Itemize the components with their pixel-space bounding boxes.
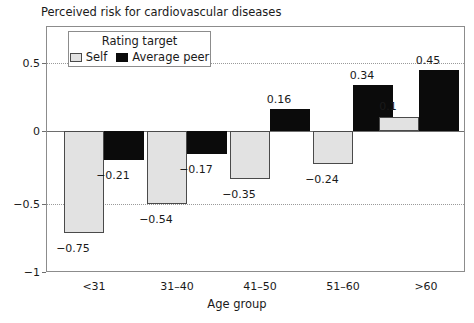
x-tick-label-1: 31–40 xyxy=(137,281,217,293)
legend-entries: Self Average peer xyxy=(69,51,210,63)
y-tick-mark-3 xyxy=(42,272,46,273)
y-axis: 0.5 0 −0.5 −1 xyxy=(0,0,46,323)
legend: Rating target Self Average peer xyxy=(68,31,211,67)
x-tick-label-0: <31 xyxy=(54,281,134,293)
y-tick-label-0: 0.5 xyxy=(0,58,40,69)
data-label-self-3: −0.24 xyxy=(292,174,352,186)
legend-label-peer: Average peer xyxy=(132,51,209,63)
y-tick-label-1: 0 xyxy=(0,126,40,137)
data-label-self-2: −0.35 xyxy=(209,189,269,201)
data-label-peer-0: −0.21 xyxy=(83,170,143,182)
legend-swatch-peer-icon xyxy=(116,53,128,62)
bar-self-4 xyxy=(379,117,419,131)
bar-self-0 xyxy=(64,131,104,233)
legend-title: Rating target xyxy=(69,35,210,48)
data-label-self-0: −0.75 xyxy=(43,243,103,255)
chart-screenshot: Perceived risk for cardiovascular diseas… xyxy=(0,0,474,323)
y-tick-label-3: −1 xyxy=(0,267,40,278)
legend-entry-peer: Average peer xyxy=(116,51,209,63)
bar-self-2 xyxy=(230,131,270,179)
bar-peer-0 xyxy=(104,131,144,160)
x-tick-label-2: 41–50 xyxy=(220,281,300,293)
legend-label-self: Self xyxy=(86,51,108,63)
gridline--0.5 xyxy=(47,204,464,205)
x-axis-title: Age group xyxy=(0,297,474,311)
data-label-peer-1: −0.17 xyxy=(166,164,226,176)
data-label-self-4: 0.1 xyxy=(358,101,418,113)
x-tick-label-4: >60 xyxy=(386,281,466,293)
chart-title: Perceived risk for cardiovascular diseas… xyxy=(41,5,281,19)
y-tick-label-2: −0.5 xyxy=(0,199,40,210)
legend-swatch-self-icon xyxy=(70,53,82,62)
bar-peer-4 xyxy=(419,70,459,131)
legend-entry-self: Self xyxy=(70,51,108,63)
data-label-peer-2: 0.16 xyxy=(249,94,309,106)
bar-peer-2 xyxy=(270,109,310,131)
data-label-peer-3: 0.34 xyxy=(332,70,392,82)
bar-peer-1 xyxy=(187,131,227,154)
x-tick-label-3: 51–60 xyxy=(303,281,383,293)
data-label-peer-4: 0.45 xyxy=(398,55,458,67)
bar-self-3 xyxy=(313,131,353,164)
data-label-self-1: −0.54 xyxy=(126,214,186,226)
